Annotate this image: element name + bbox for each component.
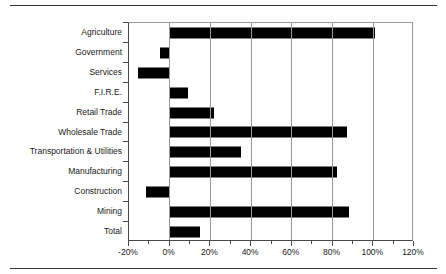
gridline-0 bbox=[169, 23, 170, 240]
x-axis-label: 120% bbox=[391, 247, 435, 257]
y-axis-tick bbox=[123, 221, 128, 222]
category-label: Services bbox=[0, 67, 122, 77]
x-axis-label: 60% bbox=[269, 247, 313, 257]
x-axis-tick-minor bbox=[393, 241, 394, 244]
x-axis-tick-minor bbox=[311, 241, 312, 244]
bar-rows bbox=[129, 23, 412, 240]
x-axis-tick-major bbox=[332, 241, 333, 246]
bar[interactable] bbox=[160, 47, 170, 58]
x-axis-tick-major bbox=[413, 241, 414, 246]
x-axis-tick-major bbox=[128, 241, 129, 246]
category-label: Government bbox=[0, 47, 122, 57]
bar[interactable] bbox=[146, 187, 169, 198]
bar[interactable] bbox=[170, 167, 337, 178]
x-axis-label: -20% bbox=[106, 247, 150, 257]
gridline-80 bbox=[332, 23, 333, 240]
x-axis-label: 0% bbox=[147, 247, 191, 257]
gridline-100 bbox=[373, 23, 374, 240]
figure-container: AgricultureGovernmentServicesF.I.R.E.Ret… bbox=[0, 0, 446, 274]
x-axis-tick-minor bbox=[148, 241, 149, 244]
x-axis-tick-major bbox=[169, 241, 170, 246]
x-axis-tick-major bbox=[250, 241, 251, 246]
bar-row bbox=[129, 63, 412, 83]
category-label: Construction bbox=[0, 186, 122, 196]
x-axis-tick-minor bbox=[271, 241, 272, 244]
bar-row bbox=[129, 202, 412, 222]
bar-row bbox=[129, 123, 412, 143]
category-label: Retail Trade bbox=[0, 107, 122, 117]
x-axis-label: 40% bbox=[228, 247, 272, 257]
x-axis-tick-minor bbox=[189, 241, 190, 244]
y-axis-tick bbox=[123, 161, 128, 162]
y-axis-tick bbox=[123, 122, 128, 123]
category-label: Agriculture bbox=[0, 27, 122, 37]
bar-row bbox=[129, 83, 412, 103]
bar[interactable] bbox=[170, 27, 376, 38]
bar[interactable] bbox=[170, 207, 349, 218]
gridline-20 bbox=[210, 23, 211, 240]
y-axis-tick bbox=[123, 102, 128, 103]
bar-row bbox=[129, 182, 412, 202]
category-label: Transportation & Utilities bbox=[0, 146, 122, 156]
x-axis-tick-minor bbox=[352, 241, 353, 244]
category-label: Manufacturing bbox=[0, 166, 122, 176]
bar[interactable] bbox=[170, 227, 201, 238]
y-axis-tick bbox=[123, 141, 128, 142]
category-axis-labels: AgricultureGovernmentServicesF.I.R.E.Ret… bbox=[0, 22, 122, 241]
x-axis-tick-major bbox=[291, 241, 292, 246]
gridline-40 bbox=[251, 23, 252, 240]
bar-row bbox=[129, 103, 412, 123]
x-axis-tick-minor bbox=[230, 241, 231, 244]
x-axis-label: 20% bbox=[187, 247, 231, 257]
bar[interactable] bbox=[138, 67, 170, 78]
bar[interactable] bbox=[170, 127, 347, 138]
gridline-60 bbox=[291, 23, 292, 240]
bar-row bbox=[129, 222, 412, 242]
y-axis-tick bbox=[123, 42, 128, 43]
bar-row bbox=[129, 43, 412, 63]
x-axis-label: 80% bbox=[310, 247, 354, 257]
bar-row bbox=[129, 23, 412, 43]
y-axis-tick bbox=[123, 181, 128, 182]
x-axis-label: 100% bbox=[350, 247, 394, 257]
y-axis-tick bbox=[123, 201, 128, 202]
bar-row bbox=[129, 142, 412, 162]
x-axis-tick-major bbox=[209, 241, 210, 246]
category-label: Total bbox=[0, 226, 122, 236]
bar[interactable] bbox=[170, 87, 188, 98]
y-axis-tick bbox=[123, 22, 128, 23]
category-label: F.I.R.E. bbox=[0, 87, 122, 97]
x-axis-tick-major bbox=[372, 241, 373, 246]
y-axis-tick bbox=[123, 82, 128, 83]
bar-row bbox=[129, 162, 412, 182]
category-label: Mining bbox=[0, 206, 122, 216]
y-axis-tick bbox=[123, 62, 128, 63]
horizontal-bar-chart: AgricultureGovernmentServicesF.I.R.E.Ret… bbox=[0, 0, 446, 274]
plot-area bbox=[128, 22, 413, 241]
category-label: Wholesale Trade bbox=[0, 127, 122, 137]
bar[interactable] bbox=[170, 107, 215, 118]
bar[interactable] bbox=[170, 147, 241, 158]
